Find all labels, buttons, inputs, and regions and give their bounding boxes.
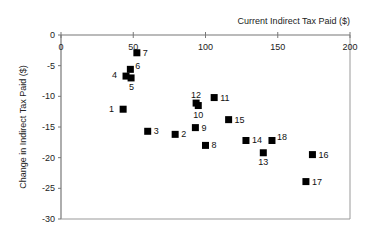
data-point-label: 11 [220,93,229,103]
data-point-marker [309,151,316,158]
data-point-label: 9 [201,123,206,133]
scatter-chart: Current Indirect Tax Paid ($) Change in … [0,0,374,233]
data-point-marker [202,142,209,149]
data-point-label: 5 [129,82,134,92]
axes: 0501001502000-5-10-15-20-25-30 [42,30,358,224]
x-tick-label: 0 [58,42,63,52]
data-point-label: 1 [109,104,114,114]
data-point-label: 14 [252,135,262,145]
data-point-marker [225,116,232,123]
data-point-marker [128,74,135,81]
data-point-label: 18 [277,132,287,142]
data-point-label: 12 [191,90,201,100]
data-point-label: 4 [112,70,117,80]
data-point-label: 2 [181,129,186,139]
data-point-label: 6 [135,61,140,71]
data-point-label: 16 [318,150,328,160]
x-tick-label: 150 [270,42,285,52]
data-point-label: 15 [235,115,245,125]
data-point-marker [133,49,140,56]
y-tick-label: 0 [50,30,55,40]
data-point-label: 3 [154,126,159,136]
data-point-marker [260,149,267,156]
data-point-marker [192,124,199,131]
x-tick-label: 200 [342,42,357,52]
y-axis-title: Change in Indirect Tax Paid ($) [18,65,28,188]
y-tick-label: -30 [42,214,55,224]
y-tick-label: -5 [47,61,55,71]
data-point-marker [268,137,275,144]
y-tick-label: -10 [42,91,55,101]
data-point-marker [172,131,179,138]
data-point-marker [193,100,200,107]
y-tick-label: -20 [42,153,55,163]
y-tick-label: -15 [42,122,55,132]
data-point-marker [211,94,218,101]
data-point-marker [242,137,249,144]
data-point-label: 10 [193,110,203,120]
data-point-marker [144,128,151,135]
x-tick-label: 100 [198,42,213,52]
data-point-marker [120,106,127,113]
data-points: 123456789101112131415161718 [109,48,328,187]
y-tick-label: -25 [42,183,55,193]
data-point-marker [302,178,309,185]
data-point-label: 8 [212,140,217,150]
data-point-label: 7 [143,48,148,58]
data-point-marker [127,66,134,73]
x-axis-title: Current Indirect Tax Paid ($) [238,16,350,26]
data-point-label: 13 [258,157,268,167]
data-point-label: 17 [312,177,322,187]
